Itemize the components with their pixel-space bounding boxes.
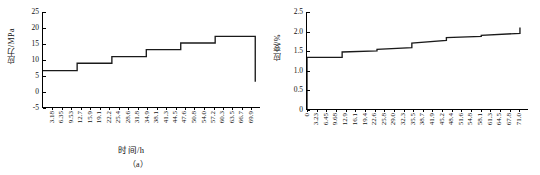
x-tick-mark: [242, 107, 243, 110]
x-tick-label: 54.8: [467, 113, 474, 125]
x-tick-label: 47.6: [181, 111, 188, 123]
x-tick-mark: [223, 107, 224, 110]
x-tick-label: 41.3: [163, 111, 170, 123]
x-tick-label: 64.5: [496, 113, 503, 125]
x-tick-mark: [461, 109, 462, 112]
x-tick-mark: [404, 109, 405, 112]
x-tick-label: 38.1: [153, 111, 160, 123]
x-tick-label: 67.8: [506, 113, 513, 125]
y-tick-mark: [43, 76, 46, 77]
x-tick-mark: [166, 107, 167, 110]
x-tick-label: 6.35: [58, 111, 65, 123]
x-tick-mark: [232, 107, 233, 110]
x-tick-label: 16.1: [352, 113, 359, 125]
x-tick-mark: [355, 109, 356, 112]
subfigure-caption-a: （a）: [128, 161, 148, 169]
x-tick-label: 12.9: [342, 113, 349, 125]
x-tick-mark: [52, 107, 53, 110]
x-tick-label: 12.7: [77, 111, 84, 123]
x-tick-mark: [471, 109, 472, 112]
x-tick-mark: [119, 107, 120, 110]
x-axis-label-a: 时间/h: [118, 146, 145, 155]
y-tick-label: 10: [32, 56, 44, 64]
x-tick-label: 22.2: [106, 111, 113, 123]
y-tick-mark: [307, 71, 310, 72]
y-tick-mark: [43, 108, 46, 109]
x-tick-label: 41.9: [429, 113, 436, 125]
y-tick-label: 5: [35, 72, 43, 80]
x-tick-mark: [214, 107, 215, 110]
x-tick-mark: [481, 109, 482, 112]
y-tick-mark: [43, 92, 46, 93]
x-tick-label: 61.3: [487, 113, 494, 125]
y-tick-mark: [43, 28, 46, 29]
x-tick-mark: [413, 109, 414, 112]
x-tick-mark: [423, 109, 424, 112]
x-tick-mark: [442, 109, 443, 112]
y-tick-mark: [43, 60, 46, 61]
x-tick-mark: [519, 109, 520, 112]
x-tick-mark: [157, 107, 158, 110]
x-tick-label: 32.3: [400, 113, 407, 125]
x-tick-mark: [176, 107, 177, 110]
x-tick-label: 44.5: [172, 111, 179, 123]
chart-panel-a: 应力/MPa -505101520253.186.359.5312.715.91…: [0, 0, 270, 175]
x-tick-mark: [194, 107, 195, 110]
x-tick-label: 71.0: [516, 113, 523, 125]
x-tick-mark: [432, 109, 433, 112]
x-tick-mark: [510, 109, 511, 112]
x-tick-label: 57.2: [210, 111, 217, 123]
x-tick-label: 22.6: [371, 113, 378, 125]
y-tick-mark: [43, 44, 46, 45]
x-tick-mark: [109, 107, 110, 110]
y-axis-label-a: 应力/MPa: [8, 28, 16, 64]
x-tick-label: 38.7: [419, 113, 426, 125]
x-tick-label: 29.0: [390, 113, 397, 125]
x-tick-label: 25.8: [381, 113, 388, 125]
plot-area-a: -505101520253.186.359.5312.715.919.122.2…: [42, 12, 260, 108]
x-tick-label: 31.8: [134, 111, 141, 123]
x-tick-label: 3.18: [49, 111, 56, 123]
x-tick-mark: [326, 109, 327, 112]
x-tick-label: 69.9: [248, 111, 255, 123]
stress-step-curve: [43, 12, 260, 107]
x-tick-label: 48.4: [448, 113, 455, 125]
x-tick-label: 19.4: [362, 113, 369, 125]
x-tick-label: 19.1: [96, 111, 103, 123]
x-tick-label: 35.5: [410, 113, 417, 125]
x-tick-mark: [62, 107, 63, 110]
x-tick-mark: [71, 107, 72, 110]
y-tick-label: 0.5: [294, 87, 307, 95]
y-tick-label: 2.5: [294, 8, 307, 16]
figure-container: 应力/MPa -505101520253.186.359.5312.715.91…: [0, 0, 540, 175]
x-tick-label: 28.6: [125, 111, 132, 123]
strain-creep-curve: [307, 12, 528, 109]
y-tick-mark: [307, 90, 310, 91]
x-tick-mark: [317, 109, 318, 112]
x-tick-mark: [490, 109, 491, 112]
x-tick-label: 34.9: [144, 111, 151, 123]
y-tick-label: 1.0: [294, 67, 307, 75]
x-tick-label: 45.2: [439, 113, 446, 125]
y-tick-label: 25: [32, 8, 44, 16]
x-tick-mark: [346, 109, 347, 112]
x-tick-label: 51.6: [458, 113, 465, 125]
x-tick-label: 0: [304, 113, 311, 117]
x-tick-mark: [138, 107, 139, 110]
x-tick-mark: [128, 107, 129, 110]
y-tick-mark: [43, 12, 46, 13]
x-tick-label: 15.9: [87, 111, 94, 123]
x-tick-label: 25.4: [115, 111, 122, 123]
y-tick-label: 1.5: [294, 47, 307, 55]
x-tick-mark: [204, 107, 205, 110]
x-tick-label: 60.3: [219, 111, 226, 123]
x-tick-label: 9.68: [332, 113, 339, 125]
y-axis-label-b: 应变/%: [274, 34, 282, 61]
chart-panel-b: 应变/% 00.51.01.52.02.503.236.459.6812.916…: [270, 0, 540, 175]
y-tick-label: 20: [32, 24, 44, 32]
y-tick-label: 15: [32, 40, 44, 48]
x-tick-label: 63.5: [229, 111, 236, 123]
x-tick-label: 3.23: [313, 113, 320, 125]
x-tick-mark: [185, 107, 186, 110]
x-tick-mark: [384, 109, 385, 112]
